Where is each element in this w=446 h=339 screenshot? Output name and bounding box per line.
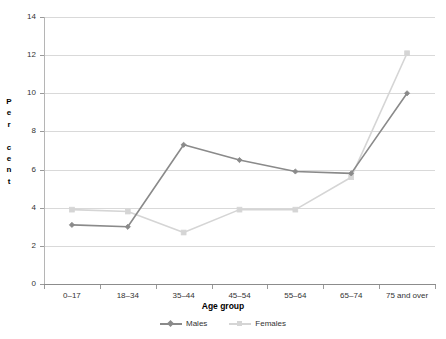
data-point [237, 157, 242, 162]
legend-label: Females [255, 319, 286, 328]
legend-label: Males [186, 319, 207, 328]
legend: MalesFemales [0, 319, 446, 328]
data-point [237, 207, 242, 212]
series-line [72, 53, 407, 232]
data-point [69, 222, 74, 227]
data-point [70, 207, 75, 212]
line-chart: Per cent 02468101214 0–1718–3435–4445–54… [0, 0, 446, 339]
data-point [125, 209, 130, 214]
legend-swatch-icon [160, 320, 182, 328]
legend-item-males[interactable]: Males [160, 319, 207, 328]
data-point [293, 169, 298, 174]
legend-item-females[interactable]: Females [229, 319, 286, 328]
data-point [405, 51, 410, 56]
series-layer [0, 0, 446, 339]
legend-swatch-icon [229, 320, 251, 328]
data-point [181, 230, 186, 235]
x-axis-title: Age group [0, 301, 446, 311]
series-females [70, 51, 410, 235]
data-point [293, 207, 298, 212]
